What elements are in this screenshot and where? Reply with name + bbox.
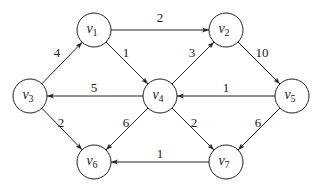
node-v3: v3 — [13, 79, 47, 113]
edge-weight-label: 2 — [157, 10, 164, 25]
edge-weight-label: 4 — [54, 45, 61, 60]
node-v7: v7 — [209, 145, 243, 179]
node-v6: v6 — [77, 145, 111, 179]
directed-weighted-graph: v1v2v3v4v5v6v7 4213105126261 — [0, 0, 318, 189]
node-v4: v4 — [143, 79, 177, 113]
edge-weight-label: 5 — [91, 80, 98, 95]
node-v5: v5 — [275, 79, 309, 113]
edge-weight-label: 6 — [123, 115, 130, 130]
edge-weight-label: 1 — [157, 146, 164, 161]
edge-weight-label: 2 — [58, 115, 65, 130]
edge-weight-label: 1 — [123, 45, 130, 60]
node-v2: v2 — [209, 13, 243, 47]
edge-weight-label: 1 — [223, 80, 230, 95]
edge-v3-v1 — [42, 42, 82, 84]
edge-weight-label: 3 — [189, 45, 196, 60]
node-v1: v1 — [77, 13, 111, 47]
edge-weight-label: 10 — [256, 45, 269, 60]
edge-weight-label: 6 — [255, 115, 262, 130]
edge-weight-label: 2 — [191, 115, 198, 130]
